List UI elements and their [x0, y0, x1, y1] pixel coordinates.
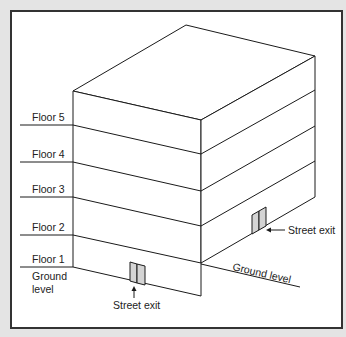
- side-door-right: [259, 207, 266, 230]
- label-ground-level-right: Ground level: [232, 260, 293, 285]
- label-floor-5: Floor 5: [32, 111, 65, 123]
- label-floor-2: Floor 2: [32, 221, 65, 233]
- side-door-left: [252, 211, 259, 234]
- front-door-left: [130, 262, 137, 283]
- building-diagram: Floor 5 Floor 4 Floor 3 Floor 2 Floor 1 …: [0, 0, 346, 337]
- label-street-exit-front: Street exit: [113, 299, 160, 311]
- label-floor-4: Floor 4: [32, 148, 65, 160]
- label-ground-level-line2: level: [32, 283, 54, 295]
- side-exit-arrowhead: [266, 228, 271, 233]
- label-floor-3: Floor 3: [32, 183, 65, 195]
- label-floor-1: Floor 1: [32, 253, 65, 265]
- front-door-right: [137, 264, 145, 285]
- label-street-exit-side: Street exit: [288, 224, 335, 236]
- front-exit-arrowhead: [132, 286, 137, 291]
- label-ground-level-line1: Ground: [32, 270, 67, 282]
